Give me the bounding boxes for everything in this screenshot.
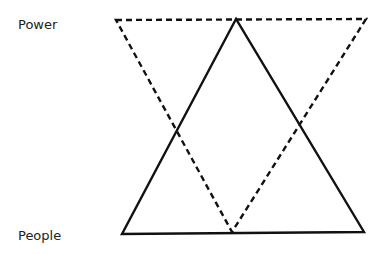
triangles-diagram	[0, 0, 379, 254]
inverted-dashed-triangle	[116, 19, 366, 232]
upright-solid-triangle	[122, 19, 364, 234]
